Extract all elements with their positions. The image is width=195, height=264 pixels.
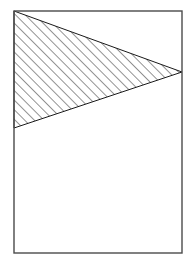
figure-svg: Hatched triangular region inside a recta… (0, 0, 195, 264)
figure-canvas: Hatched triangular region inside a recta… (0, 0, 195, 264)
